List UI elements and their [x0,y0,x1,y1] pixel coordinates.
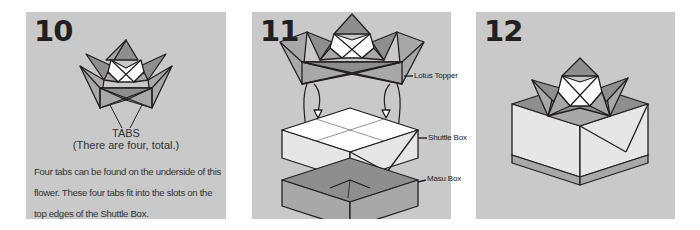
tabs-note: (There are four, total.) [26,139,226,151]
finished-lotus-box-illustration [476,12,675,219]
step-10-description: Four tabs can be found on the underside … [34,161,224,224]
step-number: 11 [260,14,298,48]
step-10-panel: 10 [26,12,226,219]
tabs-label: TABS [26,127,226,139]
lotus-topper-callout: Lotus Topper [414,71,458,81]
step-11-panel: 11 Lotus Topper Shuttle Box Masu Box [252,12,451,219]
masu-box-callout: Masu Box [427,174,461,184]
shuttle-box-callout: Shuttle Box [428,133,467,143]
step-12-panel: 12 [476,12,675,219]
